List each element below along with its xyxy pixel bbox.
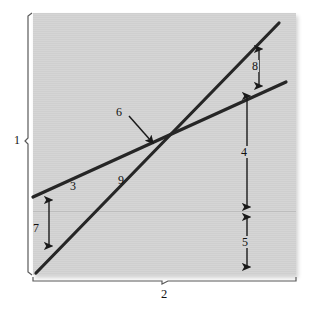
- vector-layer: [0, 0, 318, 309]
- label-gap-upper: 4: [240, 146, 248, 158]
- bracket-x-axis: [33, 277, 296, 284]
- callout-arrow-intersection: [129, 116, 152, 142]
- label-gap-right-top: 8: [251, 60, 259, 72]
- figure-canvas: 1 2 3 4 5 6 7 8 9: [0, 0, 318, 309]
- label-x-axis: 2: [161, 288, 167, 301]
- label-gap-lower: 5: [241, 236, 249, 248]
- label-y-axis: 1: [14, 134, 20, 146]
- label-gap-left: 7: [33, 222, 39, 234]
- label-steeper-line: 9: [118, 174, 124, 186]
- label-flatter-line: 3: [70, 180, 76, 192]
- label-intersection: 6: [116, 106, 122, 118]
- bracket-y-axis: [25, 13, 32, 275]
